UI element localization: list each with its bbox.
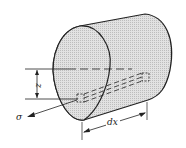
sigma-arrowhead bbox=[27, 112, 35, 117]
dx-arrow-right bbox=[139, 113, 146, 118]
z-arrow-bottom bbox=[35, 93, 39, 98]
dx-arrow-left bbox=[83, 128, 90, 133]
dx-label: dx bbox=[107, 117, 118, 127]
sigma-label: σ bbox=[16, 112, 23, 122]
z-label: z bbox=[33, 83, 43, 89]
z-arrow-top bbox=[35, 70, 39, 75]
beam-diagram: z σ dx bbox=[0, 0, 186, 148]
